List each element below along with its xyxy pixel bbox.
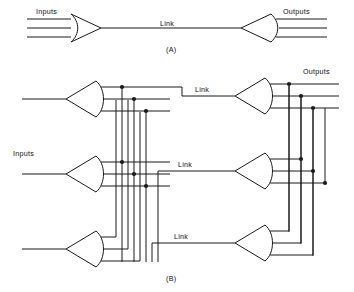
panel-b-outputs-label: Outputs [303, 67, 330, 76]
panel-a-caption: (A) [166, 45, 176, 54]
panel-b-right-vertical-bus [289, 84, 325, 256]
panel-b-link-label-3: Link [174, 232, 188, 241]
panel-b-left-gate-1 [66, 81, 104, 117]
panel-b-inputs-label: Inputs [13, 149, 34, 158]
panel-a-output-wires [276, 19, 327, 37]
panel-a-input-wires [27, 19, 71, 37]
schematic-svg: Inputs Outputs Link (A) [0, 0, 354, 292]
panel-b-link-2-wire [158, 171, 235, 262]
panel-b-group: Inputs Outputs Link Link Link (B) [13, 67, 339, 283]
panel-b-right-gate-2-outputs [270, 159, 325, 183]
panel-b-right-gate-3 [235, 225, 273, 261]
panel-a-outputs-label: Outputs [283, 7, 310, 16]
panel-b-left-gate-2 [66, 156, 104, 192]
panel-a-group: Inputs Outputs Link (A) [27, 7, 327, 54]
panel-a-left-gate [71, 14, 101, 42]
panel-b-right-gate-1-outputs [270, 84, 339, 108]
panel-b-link-label-2: Link [178, 160, 192, 169]
panel-b-left-gate-3 [66, 231, 104, 267]
panel-a-inputs-label: Inputs [36, 7, 57, 16]
panel-b-link-label-1: Link [195, 85, 209, 94]
panel-b-right-gate-2 [235, 153, 273, 189]
panel-a-link-label: Link [160, 19, 174, 28]
figure-canvas: Inputs Outputs Link (A) [0, 0, 354, 292]
panel-a-right-gate [241, 14, 278, 42]
panel-b-caption: (B) [166, 274, 176, 283]
panel-b-right-gate-1 [235, 78, 273, 114]
panel-b-link-3-wire [152, 243, 235, 262]
